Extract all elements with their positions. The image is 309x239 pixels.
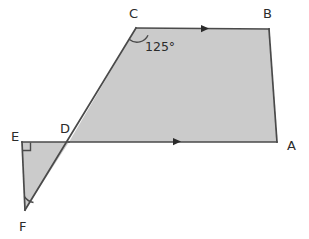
vertex-label-e: E <box>11 129 19 144</box>
vertex-label-b: B <box>263 6 272 21</box>
angle-value-labels: 125° <box>145 39 175 54</box>
angle-label-c: 125° <box>145 39 175 54</box>
filled-regions <box>22 28 277 210</box>
vertex-label-d: D <box>60 121 70 136</box>
vertex-label-c: C <box>129 6 138 21</box>
vertex-label-a: A <box>287 138 296 153</box>
vertex-label-f: F <box>19 219 26 234</box>
geometry-figure: 125° C B A D E F <box>0 0 309 239</box>
geometry-canvas: 125° C B A D E F <box>0 0 309 239</box>
